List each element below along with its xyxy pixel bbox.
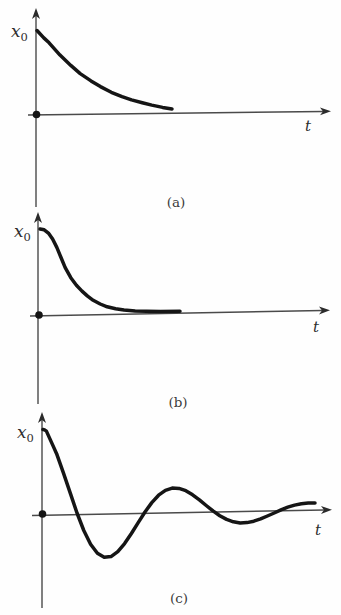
origin-dot-a bbox=[33, 111, 41, 119]
panel-c: x0 t (c) bbox=[17, 412, 332, 608]
origin-dot-b bbox=[35, 311, 43, 319]
curve-b bbox=[40, 229, 180, 312]
caption-a: (a) bbox=[167, 194, 186, 210]
y-axis-label-c: x0 bbox=[17, 422, 34, 445]
x-axis-label-a: t bbox=[305, 117, 312, 135]
panel-b: x0 t (b) bbox=[14, 212, 330, 410]
origin-dot-c bbox=[39, 510, 47, 518]
figure-canvas: x0 t (a) x0 t (b) x0 t (c) bbox=[0, 0, 341, 615]
caption-b: (b) bbox=[168, 394, 187, 410]
y-axis-label-a: x0 bbox=[11, 21, 28, 44]
y-axis-label-b: x0 bbox=[14, 221, 31, 244]
curve-a bbox=[37, 31, 172, 110]
x-axis-label-c: t bbox=[315, 521, 322, 539]
x-axis-a bbox=[28, 112, 323, 116]
figure-damped-responses: x0 t (a) x0 t (b) x0 t (c) bbox=[0, 0, 341, 615]
caption-c: (c) bbox=[170, 590, 188, 606]
panel-a: x0 t (a) bbox=[11, 8, 331, 210]
x-axis-label-b: t bbox=[313, 318, 320, 336]
curve-c bbox=[43, 430, 315, 558]
